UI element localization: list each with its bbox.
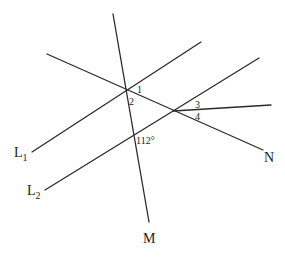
angle-1-label: 1 (137, 84, 142, 95)
geometry-diagram: 1 2 3 4 112° L1 L2 M N (0, 0, 285, 261)
label-l2: L2 (27, 183, 41, 201)
angle-2-label: 2 (129, 96, 134, 107)
label-n: N (264, 150, 274, 165)
ray-3 (173, 105, 271, 111)
line-n (47, 54, 263, 150)
angle-3-label: 3 (195, 99, 200, 110)
line-l2 (45, 58, 259, 190)
angle-4-label: 4 (195, 111, 200, 122)
angle-112-label: 112° (136, 135, 155, 146)
label-m: M (143, 231, 156, 246)
line-m (113, 14, 149, 222)
label-l1: L1 (14, 145, 28, 163)
